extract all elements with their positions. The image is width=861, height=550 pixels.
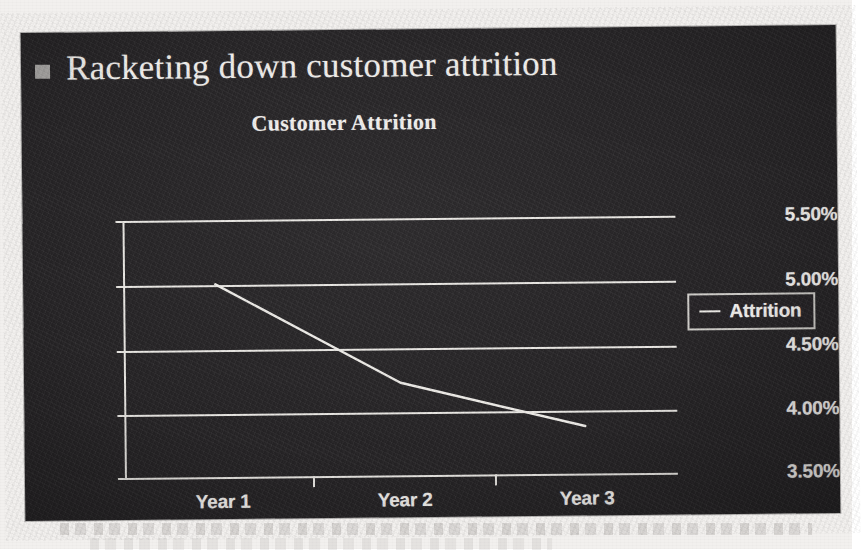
series-attrition-line <box>215 281 585 430</box>
square-bullet-icon <box>35 64 50 78</box>
legend-label-attrition: Attrition <box>729 299 801 322</box>
slide-canvas: Racketing down customer attrition Custom… <box>21 25 841 521</box>
attrition-line-chart: Customer Attrition 5.5 <box>21 81 840 521</box>
page-bleedthrough-text <box>60 523 812 535</box>
slide-title: Racketing down customer attrition <box>66 46 558 86</box>
slide-bullet-heading: Racketing down customer attrition <box>35 46 558 86</box>
chart-legend: Attrition <box>687 292 815 330</box>
presentation-slide: Racketing down customer attrition Custom… <box>21 25 841 521</box>
page-bleedthrough-text-2 <box>90 538 552 550</box>
legend-line-marker-icon <box>699 310 720 312</box>
